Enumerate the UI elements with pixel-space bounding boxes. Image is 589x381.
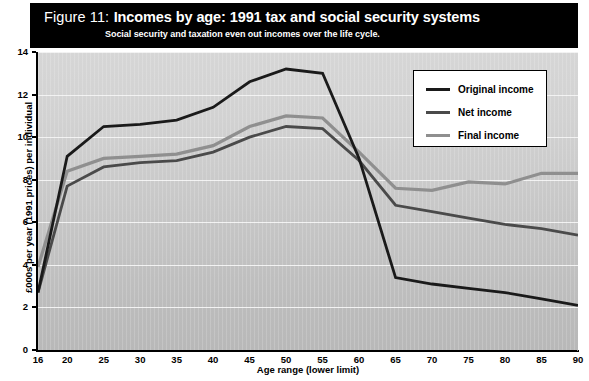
x-tick-label: 35 bbox=[162, 355, 192, 365]
y-tick-mark bbox=[32, 136, 36, 138]
y-tick-label: 2 bbox=[0, 302, 28, 312]
legend-item: Original income bbox=[426, 82, 534, 96]
x-tick-label: 85 bbox=[527, 355, 557, 365]
legend-swatch-icon bbox=[426, 111, 450, 114]
figure-header: Figure 11: Incomes by age: 1991 tax and … bbox=[30, 3, 578, 48]
legend-label: Net income bbox=[458, 107, 512, 118]
legend-swatch-icon bbox=[426, 134, 450, 137]
y-tick-mark bbox=[32, 221, 36, 223]
x-tick-label: 90 bbox=[563, 355, 589, 365]
x-tick-label: 30 bbox=[125, 355, 155, 365]
y-tick-label: 6 bbox=[0, 217, 28, 227]
x-tick-label: 40 bbox=[198, 355, 228, 365]
x-tick-label: 25 bbox=[89, 355, 119, 365]
figure-title-line: Figure 11: Incomes by age: 1991 tax and … bbox=[44, 8, 480, 26]
y-tick-mark bbox=[32, 51, 36, 53]
y-tick-label: 0 bbox=[0, 345, 28, 355]
x-tick-label: 45 bbox=[235, 355, 265, 365]
y-tick-mark bbox=[32, 94, 36, 96]
x-tick-label: 70 bbox=[417, 355, 447, 365]
x-tick-label: 75 bbox=[454, 355, 484, 365]
figure-subtitle: Social security and taxation even out in… bbox=[105, 29, 380, 39]
x-axis-line bbox=[36, 350, 579, 352]
legend-item: Final income bbox=[426, 128, 519, 142]
x-axis-title: Age range (lower limit) bbox=[38, 364, 578, 375]
x-tick-label: 55 bbox=[308, 355, 338, 365]
x-tick-label: 80 bbox=[490, 355, 520, 365]
y-tick-mark bbox=[32, 349, 36, 351]
legend-label: Final income bbox=[458, 130, 519, 141]
y-tick-mark bbox=[32, 306, 36, 308]
series-line-net-income bbox=[38, 127, 578, 293]
y-tick-label: 10 bbox=[0, 132, 28, 142]
x-tick-label: 20 bbox=[52, 355, 82, 365]
x-tick-label: 16 bbox=[23, 355, 53, 365]
figure-title: Incomes by age: 1991 tax and social secu… bbox=[114, 9, 480, 25]
y-tick-label: 4 bbox=[0, 260, 28, 270]
x-tick-label: 50 bbox=[271, 355, 301, 365]
y-tick-mark bbox=[32, 264, 36, 266]
y-tick-label: 12 bbox=[0, 90, 28, 100]
legend-item: Net income bbox=[426, 105, 512, 119]
y-tick-mark bbox=[32, 179, 36, 181]
figure-number: Figure 11: bbox=[44, 9, 109, 25]
y-axis-title: £000s per year (1991 prices) per individ… bbox=[23, 73, 34, 323]
x-tick-label: 60 bbox=[344, 355, 374, 365]
legend-label: Original income bbox=[458, 84, 534, 95]
x-tick-label: 65 bbox=[381, 355, 411, 365]
chart-legend: Original incomeNet incomeFinal income bbox=[413, 70, 547, 147]
figure-container: Figure 11: Incomes by age: 1991 tax and … bbox=[0, 0, 589, 381]
y-tick-label: 8 bbox=[0, 175, 28, 185]
legend-swatch-icon bbox=[426, 88, 450, 91]
y-tick-label: 14 bbox=[0, 47, 28, 57]
